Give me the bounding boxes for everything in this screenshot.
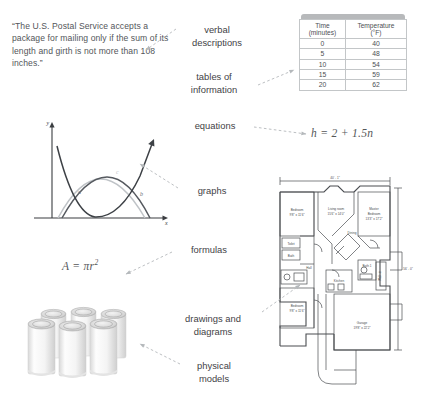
cell-temp: 40 [345,38,406,48]
label-graphs: graphs [180,185,244,198]
room-label-toilet: Toilet [287,242,294,246]
table-row: 20 62 [300,80,407,90]
cell-time: 10 [300,59,346,69]
header-time-line1: Time [315,22,329,29]
label-tables-of-information: tables of information [172,71,256,96]
label-verbal-descriptions: verbal descriptions [178,24,256,49]
arrow-equations-to-equation [254,127,306,134]
graph-curve-label-a: a [78,189,81,195]
physical-models-figure [16,296,156,388]
header-temp-line2: (°F) [370,29,381,36]
room-label-master-bedroom: Master [369,207,378,211]
table-header-temperature: Temperature (°F) [345,20,406,39]
can-front-right [90,319,117,376]
floorplan-height-dimension-label: 56' - 0" [403,267,413,271]
arrow-tables-to-table [258,70,294,85]
cell-temp: 62 [345,80,406,90]
graph-axes [34,122,168,221]
floorplan-width-dimension-label: 40' - 1" [330,176,340,180]
table-row: 15 59 [300,70,407,80]
room-size-master-bedroom: 13'3" x 17'2" [366,217,383,221]
can-front-left [28,319,55,376]
room-label-living-room: Living room [328,207,344,211]
table-row: 0 40 [300,38,407,48]
label-equations: equations [178,120,252,133]
cell-temp: 54 [345,59,406,69]
cell-time: 5 [300,49,346,59]
table-row: 5 48 [300,49,407,59]
quote-text: “The U.S. Postal Service accepts a packa… [12,20,180,70]
room-label-walk-in: Walk-in [378,271,382,281]
equation-expression: h = 2 + 1.5n [311,127,373,139]
table-header-time: Time (minutes) [300,20,346,39]
table-row: 10 54 [300,59,407,69]
graph-curve-label-b: b [140,191,143,197]
room-size-bedroom-bottom: 9'8" x 11'6" [289,309,304,313]
room-size-living-room: 15'6" x 14'0" [328,212,345,216]
graph-curve-c [58,179,145,218]
graph-figure: y x a b c [28,118,174,234]
cell-time: 0 [300,38,346,48]
room-label-master-bedroom-2: Bedroom [368,212,381,216]
room-size-bedroom-top: 9'8" x 11'6" [289,213,304,217]
graph-x-axis-label: x [164,220,168,226]
room-label-bath-left: Bath [288,254,295,258]
label-formulas: formulas [174,244,244,257]
table-header-row: Time (minutes) Temperature (°F) [300,20,407,39]
room-label-hall: Hall [306,266,312,270]
room-label-bath-right: Bath 1 [363,264,372,268]
floorplan-height-dimension [394,188,402,350]
room-label-bedroom-top: Bedroom [291,208,304,212]
room-label-dining: Dining [348,231,357,235]
room-label-kitchen: Kitchen [334,279,345,283]
label-drawings-and-diagrams: drawings and diagrams [166,313,260,338]
header-time-line2: (minutes) [309,29,336,36]
formula-expression: A = πr2 [62,258,98,272]
cell-temp: 59 [345,70,406,80]
formula-lead: A = πr [62,260,94,272]
graph-y-axis-label: y [46,120,50,126]
floorplan-figure: Bedroom 9'8" x 11'6" Toilet Bath Hall Be… [272,174,418,392]
cell-time: 15 [300,70,346,80]
can-front-middle [59,321,86,378]
cell-time: 20 [300,80,346,90]
formula-exponent: 2 [94,258,98,267]
temperature-table: Time (minutes) Temperature (°F) 0 40 5 4… [299,14,407,91]
room-label-garage: Garage [357,321,368,325]
header-temp-line1: Temperature [357,22,394,29]
room-size-garage: 19'8" x 22'2" [354,326,371,330]
label-physical-models: physical models [182,360,246,385]
cell-temp: 48 [345,49,406,59]
arrow-formulas-to-formula [126,252,172,274]
graph-curve-label-c: c [116,169,119,175]
room-label-bedroom-bottom: Bedroom [291,304,304,308]
